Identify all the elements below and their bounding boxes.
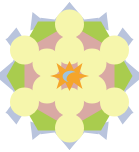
rosette-circle bbox=[10, 88, 39, 117]
rosette-circle bbox=[10, 36, 39, 65]
rosette-circle bbox=[100, 88, 129, 117]
figure-canvas bbox=[0, 0, 139, 152]
rosette-figure bbox=[0, 0, 139, 152]
rosette-circle bbox=[100, 36, 129, 65]
rosette-circle bbox=[55, 114, 84, 143]
rosette-circle bbox=[55, 10, 84, 39]
